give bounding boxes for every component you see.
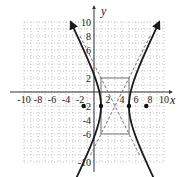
svg-text:-6: -6 (48, 94, 56, 105)
svg-text:10: 10 (159, 94, 169, 105)
svg-text:8: 8 (148, 94, 153, 105)
svg-text:8: 8 (86, 31, 91, 42)
svg-text:-4: -4 (62, 94, 70, 105)
svg-text:2: 2 (86, 73, 91, 84)
svg-text:6: 6 (134, 94, 139, 105)
hyperbola-graph: -10-8-6-4-224681010862-2-4-6-10 x y (0, 0, 185, 177)
svg-text:4: 4 (120, 94, 125, 105)
y-axis-label: y (100, 4, 107, 18)
svg-text:2: 2 (106, 94, 111, 105)
svg-text:-6: -6 (83, 129, 91, 140)
svg-text:-4: -4 (83, 115, 91, 126)
svg-text:-2: -2 (83, 101, 91, 112)
x-axis-label: x (169, 93, 176, 107)
svg-text:10: 10 (81, 17, 91, 28)
svg-text:6: 6 (86, 45, 91, 56)
svg-text:-10: -10 (78, 157, 91, 168)
svg-text:-8: -8 (34, 94, 42, 105)
svg-text:-10: -10 (17, 94, 30, 105)
